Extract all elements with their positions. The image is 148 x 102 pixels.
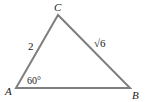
side-label-ac: 2 — [28, 40, 34, 52]
angle-label-a: 60° — [27, 75, 41, 86]
triangle-diagram: C A B 2 √6 60° — [0, 0, 148, 102]
vertex-label-c: C — [54, 1, 62, 13]
side-label-bc: √6 — [94, 37, 106, 49]
vertex-label-a: A — [4, 85, 12, 97]
vertex-label-b: B — [132, 89, 139, 101]
